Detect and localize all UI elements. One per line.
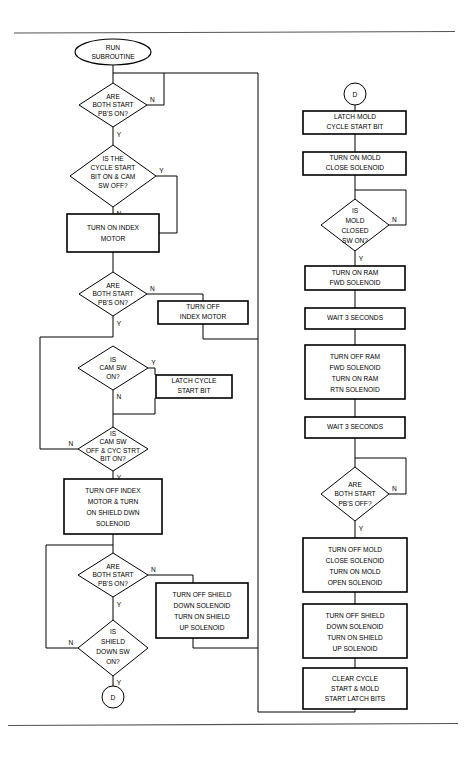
svg-text:SW ON?: SW ON? bbox=[342, 237, 368, 244]
decision-is-mold-closed-sw-on: IS MOLD CLOSED SW ON? bbox=[321, 199, 389, 251]
svg-text:TURN ON RAM: TURN ON RAM bbox=[332, 269, 379, 276]
svg-text:CLOSE SOLENOID: CLOSE SOLENOID bbox=[326, 557, 385, 564]
svg-text:TURN OFF SHIELD: TURN OFF SHIELD bbox=[326, 612, 385, 619]
svg-text:ARE: ARE bbox=[106, 563, 120, 570]
terminal-run-subroutine: RUN SUBROUTINE bbox=[75, 39, 151, 65]
svg-text:CAM SW: CAM SW bbox=[99, 438, 127, 445]
label-d4-no: N bbox=[117, 393, 122, 400]
connector-d-exit: D bbox=[102, 686, 124, 708]
label-d9-no: N bbox=[392, 485, 397, 492]
svg-text:BOTH START: BOTH START bbox=[92, 290, 133, 297]
process-turn-off-shield-down-turn-on-shield-up-right: TURN OFF SHIELD DOWN SOLENOID TURN ON SH… bbox=[303, 604, 407, 658]
label-d8-yes: Y bbox=[359, 255, 364, 262]
label-d4-yes: Y bbox=[151, 359, 156, 366]
svg-text:BIT ON?: BIT ON? bbox=[100, 455, 126, 462]
process-turn-on-mold-close-solenoid: TURN ON MOLD CLOSE SOLENOID bbox=[303, 152, 406, 175]
svg-text:ON?: ON? bbox=[106, 658, 120, 665]
svg-text:TURN ON MOLD: TURN ON MOLD bbox=[330, 154, 381, 161]
svg-text:IS: IS bbox=[110, 628, 117, 635]
conn-d3-no-to-p2 bbox=[147, 294, 203, 301]
svg-text:BIT ON & CAM: BIT ON & CAM bbox=[91, 173, 136, 180]
process-turn-off-mold-close-turn-on-mold-open: TURN OFF MOLD CLOSE SOLENOID TURN ON MOL… bbox=[303, 538, 407, 592]
decision-is-cam-sw-on: IS CAM SW ON? bbox=[78, 346, 148, 390]
process-turn-on-ram-fwd-solenoid: TURN ON RAM FWD SOLENOID bbox=[305, 266, 405, 290]
conn-d4-yes-to-p3 bbox=[148, 368, 155, 375]
label-d7-yes: Y bbox=[117, 679, 122, 686]
svg-text:BOTH START: BOTH START bbox=[92, 101, 133, 108]
connector-d-entry: D bbox=[344, 83, 366, 105]
conn-d6-no-to-p5 bbox=[148, 575, 193, 583]
svg-text:CLEAR CYCLE: CLEAR CYCLE bbox=[332, 675, 378, 682]
svg-text:DOWN SOLENOID: DOWN SOLENOID bbox=[174, 602, 231, 609]
svg-text:MOTOR & TURN: MOTOR & TURN bbox=[88, 498, 139, 505]
svg-text:WAIT 3 SECONDS: WAIT 3 SECONDS bbox=[327, 314, 384, 321]
label-d1-no: N bbox=[150, 96, 155, 103]
svg-text:FWD SOLENOID: FWD SOLENOID bbox=[330, 279, 381, 286]
svg-text:RTN SOLENOID: RTN SOLENOID bbox=[330, 386, 380, 393]
label-d6-yes: Y bbox=[117, 601, 122, 608]
flowchart-canvas: RUN SUBROUTINE ARE BOTH START PB'S ON? N… bbox=[0, 0, 468, 762]
svg-text:TURN OFF MOLD: TURN OFF MOLD bbox=[328, 546, 382, 553]
svg-text:START LATCH BITS: START LATCH BITS bbox=[325, 695, 386, 702]
svg-text:DOWN SW: DOWN SW bbox=[96, 648, 130, 655]
svg-text:PB'S ON?: PB'S ON? bbox=[98, 299, 128, 306]
svg-text:WAIT 3 SECONDS: WAIT 3 SECONDS bbox=[327, 423, 384, 430]
svg-text:ON SHIELD DWN: ON SHIELD DWN bbox=[86, 509, 139, 516]
svg-text:IS: IS bbox=[352, 207, 359, 214]
svg-text:CLOSE SOLENOID: CLOSE SOLENOID bbox=[326, 164, 385, 171]
process-turn-off-index-motor: TURN OFF INDEX MOTOR bbox=[158, 301, 248, 324]
svg-text:OPEN SOLENOID: OPEN SOLENOID bbox=[328, 579, 383, 586]
svg-text:OFF & CYC STRT: OFF & CYC STRT bbox=[86, 447, 140, 454]
svg-text:ON?: ON? bbox=[106, 373, 120, 380]
svg-text:FWD SOLENOID: FWD SOLENOID bbox=[330, 364, 381, 371]
svg-text:RUN: RUN bbox=[106, 44, 121, 51]
label-d6-no: N bbox=[151, 566, 156, 573]
label-d5-no: N bbox=[69, 440, 74, 447]
svg-text:UP SOLENOID: UP SOLENOID bbox=[333, 645, 378, 652]
process-turn-off-ram-fwd-turn-on-ram-rtn: TURN OFF RAM FWD SOLENOID TURN ON RAM RT… bbox=[305, 345, 405, 399]
svg-text:TURN OFF: TURN OFF bbox=[186, 303, 219, 310]
decision-cycle-start-bit-cam-sw-off: IS THE CYCLE START BIT ON & CAM SW OFF? bbox=[70, 145, 156, 207]
top-horizontal-rule bbox=[14, 32, 455, 34]
svg-text:MOTOR: MOTOR bbox=[101, 235, 126, 242]
decision-are-both-start-pbs-on-1: ARE BOTH START PB'S ON? bbox=[79, 83, 147, 127]
process-turn-off-shield-down-turn-on-shield-up-left: TURN OFF SHIELD DOWN SOLENOID TURN ON SH… bbox=[156, 583, 248, 638]
svg-text:CAM SW: CAM SW bbox=[99, 364, 127, 371]
svg-text:PB'S ON?: PB'S ON? bbox=[98, 580, 128, 587]
process-wait-3-seconds-2: WAIT 3 SECONDS bbox=[305, 417, 405, 438]
svg-text:START & MOLD: START & MOLD bbox=[331, 685, 379, 692]
svg-text:TURN ON MOLD: TURN ON MOLD bbox=[330, 568, 381, 575]
svg-text:IS: IS bbox=[110, 430, 117, 437]
svg-text:IS THE: IS THE bbox=[102, 155, 124, 162]
svg-text:TURN ON SHIELD: TURN ON SHIELD bbox=[174, 613, 230, 620]
decision-is-shield-down-sw-on: IS SHIELD DOWN SW ON? bbox=[78, 620, 148, 676]
label-d2-yes: Y bbox=[159, 167, 164, 174]
flowchart-page: RUN SUBROUTINE ARE BOTH START PB'S ON? N… bbox=[0, 0, 468, 762]
process-latch-mold-cycle-start-bit: LATCH MOLD CYCLE START BIT bbox=[303, 111, 406, 134]
svg-text:IS: IS bbox=[110, 356, 117, 363]
label-d1-yes: Y bbox=[117, 131, 122, 138]
svg-text:D: D bbox=[111, 694, 116, 701]
svg-text:BOTH START: BOTH START bbox=[334, 490, 375, 497]
process-clear-cycle-start-mold-start-latch-bits: CLEAR CYCLE START & MOLD START LATCH BIT… bbox=[303, 668, 407, 709]
svg-text:START BIT: START BIT bbox=[178, 387, 211, 394]
svg-text:SUBROUTINE: SUBROUTINE bbox=[91, 53, 135, 60]
svg-text:INDEX MOTOR: INDEX MOTOR bbox=[180, 313, 227, 320]
conn-p2-to-return bbox=[203, 324, 258, 339]
label-d3-yes: Y bbox=[117, 320, 122, 327]
svg-text:CYCLE START BIT: CYCLE START BIT bbox=[327, 123, 384, 130]
svg-text:PB'S ON?: PB'S ON? bbox=[98, 110, 128, 117]
decision-are-both-start-pbs-on-2: ARE BOTH START PB'S ON? bbox=[79, 272, 147, 316]
svg-text:LATCH CYCLE: LATCH CYCLE bbox=[172, 377, 218, 384]
svg-text:BOTH START: BOTH START bbox=[92, 571, 133, 578]
decision-are-both-start-pbs-off: ARE BOTH START PB'S OFF? bbox=[321, 467, 389, 521]
svg-text:UP SOLENOID: UP SOLENOID bbox=[180, 624, 225, 631]
process-turn-off-index-turn-on-shield-dwn: TURN OFF INDEX MOTOR & TURN ON SHIELD DW… bbox=[64, 479, 162, 534]
svg-text:TURN OFF SHIELD: TURN OFF SHIELD bbox=[173, 591, 232, 598]
svg-text:SHIELD: SHIELD bbox=[101, 638, 125, 645]
label-d7-no: N bbox=[69, 639, 74, 646]
svg-text:ARE: ARE bbox=[348, 481, 362, 488]
svg-text:TURN ON SHIELD: TURN ON SHIELD bbox=[327, 634, 383, 641]
label-d3-no: N bbox=[150, 285, 155, 292]
svg-text:TURN ON RAM: TURN ON RAM bbox=[332, 375, 379, 382]
